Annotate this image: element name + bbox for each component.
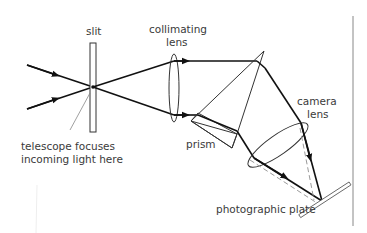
collimating-lens bbox=[169, 54, 179, 122]
label-camera-lens-1: camera bbox=[297, 95, 337, 107]
label-telescope-1: telescope focuses bbox=[21, 140, 115, 152]
spectrograph-diagram: slit collimating lens camera lens telesc… bbox=[0, 0, 367, 233]
faint-guide-line bbox=[36, 185, 37, 233]
focused-rays bbox=[254, 123, 322, 201]
label-camera-lens-2: lens bbox=[307, 108, 329, 120]
label-prism: prism bbox=[186, 138, 216, 150]
label-telescope-2: incoming light here bbox=[21, 153, 123, 165]
camera-lens bbox=[243, 116, 313, 174]
label-collimating-lens-1: collimating bbox=[149, 23, 207, 35]
incoming-rays bbox=[27, 65, 93, 109]
label-slit: slit bbox=[86, 25, 101, 37]
label-photographic-plate: photographic plate bbox=[216, 203, 316, 215]
prism bbox=[191, 51, 264, 148]
telescope-pointer-line bbox=[70, 93, 90, 130]
label-collimating-lens-2: lens bbox=[166, 36, 188, 48]
diverging-rays bbox=[93, 61, 174, 115]
